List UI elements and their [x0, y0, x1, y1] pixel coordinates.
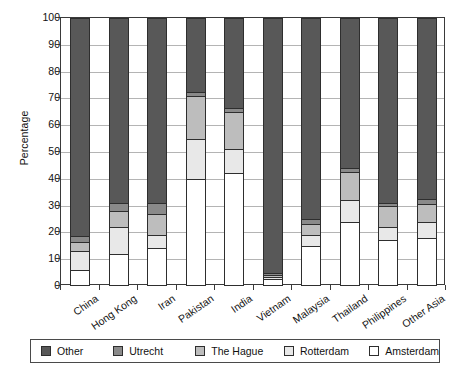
bar-segment[interactable]	[378, 18, 398, 203]
legend-item[interactable]: Other	[31, 345, 113, 357]
y-tick-label: 20	[14, 226, 60, 236]
bar-segment[interactable]	[224, 173, 244, 286]
legend-item[interactable]: Amsterdam	[369, 345, 439, 357]
bar-segment[interactable]	[70, 18, 90, 236]
bar-segment[interactable]	[109, 211, 129, 227]
bar-segment[interactable]	[70, 242, 90, 251]
bar-group[interactable]	[109, 18, 129, 284]
y-axis: 0102030405060708090100	[0, 17, 60, 285]
x-tick-mark	[291, 285, 292, 290]
y-tick-label: 30	[14, 200, 60, 210]
legend-label: Rotterdam	[300, 345, 349, 357]
bar-segment[interactable]	[417, 222, 437, 238]
bar-segment[interactable]	[109, 203, 129, 211]
y-tick-label: 50	[14, 146, 60, 156]
bar-segment[interactable]	[109, 227, 129, 254]
bar-segment[interactable]	[147, 214, 167, 235]
chart-legend: OtherUtrechtThe HagueRotterdamAmsterdam	[30, 339, 440, 363]
bar-segment[interactable]	[70, 251, 90, 270]
bar-segment[interactable]	[340, 168, 360, 172]
bar-segment[interactable]	[186, 139, 206, 179]
bar-segment[interactable]	[340, 18, 360, 168]
legend-swatch-icon	[284, 346, 294, 356]
stacked-bar[interactable]	[147, 18, 167, 284]
stacked-bar[interactable]	[301, 18, 321, 284]
y-tick-label: 10	[14, 253, 60, 263]
bar-segment[interactable]	[147, 235, 167, 248]
bars-layer	[61, 18, 444, 284]
bar-group[interactable]	[301, 18, 321, 284]
bar-group[interactable]	[417, 18, 437, 284]
bar-segment[interactable]	[340, 200, 360, 221]
bar-segment[interactable]	[224, 149, 244, 173]
bar-segment[interactable]	[263, 273, 283, 276]
bar-segment[interactable]	[263, 279, 283, 286]
bar-group[interactable]	[224, 18, 244, 284]
x-tick-mark	[214, 285, 215, 290]
bar-segment[interactable]	[301, 18, 321, 219]
legend-item[interactable]: Rotterdam	[284, 345, 369, 357]
legend-label: Other	[57, 345, 83, 357]
legend-item[interactable]: The Hague	[195, 345, 284, 357]
bar-segment[interactable]	[301, 224, 321, 235]
bar-segment[interactable]	[340, 172, 360, 200]
bar-segment[interactable]	[417, 199, 437, 204]
stacked-bar[interactable]	[224, 18, 244, 284]
legend-item[interactable]: Utrecht	[113, 345, 195, 357]
bar-segment[interactable]	[301, 246, 321, 286]
stacked-bar[interactable]	[186, 18, 206, 284]
stacked-bar[interactable]	[70, 18, 90, 284]
y-tick-label: 80	[14, 66, 60, 76]
y-tick-label: 90	[14, 39, 60, 49]
bar-segment[interactable]	[417, 18, 437, 199]
bar-segment[interactable]	[417, 238, 437, 286]
bar-segment[interactable]	[301, 235, 321, 246]
stacked-bar[interactable]	[340, 18, 360, 284]
bar-segment[interactable]	[340, 222, 360, 286]
stacked-bar[interactable]	[109, 18, 129, 284]
bar-segment[interactable]	[417, 204, 437, 221]
bar-segment[interactable]	[224, 112, 244, 150]
bar-segment[interactable]	[109, 18, 129, 203]
bar-group[interactable]	[340, 18, 360, 284]
y-tick-label: 70	[14, 92, 60, 102]
bar-segment[interactable]	[147, 248, 167, 286]
legend-label: The Hague	[211, 345, 263, 357]
stacked-bar[interactable]	[378, 18, 398, 284]
bar-segment[interactable]	[70, 236, 90, 241]
y-tick-label: 100	[14, 12, 60, 22]
bar-segment[interactable]	[186, 18, 206, 92]
x-tick-mark	[330, 285, 331, 290]
stacked-bar[interactable]	[417, 18, 437, 284]
bar-segment[interactable]	[378, 206, 398, 227]
bar-segment[interactable]	[109, 254, 129, 286]
bar-segment[interactable]	[263, 275, 283, 276]
x-tick-mark	[407, 285, 408, 290]
bar-segment[interactable]	[147, 203, 167, 214]
bar-segment[interactable]	[378, 227, 398, 240]
bar-segment[interactable]	[263, 277, 283, 280]
bar-group[interactable]	[186, 18, 206, 284]
bar-segment[interactable]	[70, 270, 90, 286]
x-tick-mark	[137, 285, 138, 290]
stacked-bar-chart: Percentage 0102030405060708090100 ChinaH…	[0, 0, 458, 379]
legend-label: Amsterdam	[385, 345, 439, 357]
x-tick-mark	[368, 285, 369, 290]
bar-group[interactable]	[378, 18, 398, 284]
bar-group[interactable]	[147, 18, 167, 284]
bar-segment[interactable]	[378, 203, 398, 206]
bar-segment[interactable]	[224, 18, 244, 108]
stacked-bar[interactable]	[263, 18, 283, 284]
bar-segment[interactable]	[263, 18, 283, 273]
bar-segment[interactable]	[186, 179, 206, 286]
bar-segment[interactable]	[186, 92, 206, 96]
x-tick-mark	[253, 285, 254, 290]
bar-group[interactable]	[70, 18, 90, 284]
bar-segment[interactable]	[147, 18, 167, 203]
bar-segment[interactable]	[301, 219, 321, 224]
bar-group[interactable]	[263, 18, 283, 284]
bar-segment[interactable]	[186, 96, 206, 139]
bar-segment[interactable]	[378, 240, 398, 286]
x-tick-mark	[60, 285, 61, 290]
bar-segment[interactable]	[224, 108, 244, 112]
